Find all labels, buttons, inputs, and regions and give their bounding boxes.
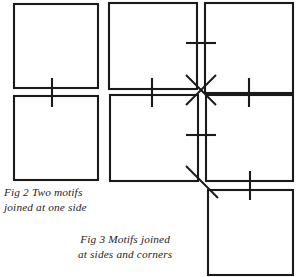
fig3-caption-line-2: at sides and corners — [78, 247, 172, 262]
fig3-bottom-left-square — [110, 95, 198, 181]
fig2-top-square — [14, 4, 98, 88]
fig3-top-left-square — [109, 3, 197, 89]
figure-page: Fig 2 Two motifs joined at one side Fig … — [0, 0, 297, 277]
fig3-caption: Fig 3 Motifs joined at sides and corners — [78, 232, 172, 261]
fig3-bottom-right-square — [206, 95, 293, 181]
fig2-caption-line-2: joined at one side — [4, 200, 87, 215]
fig2-bottom-square — [14, 96, 98, 180]
fig3-caption-line-1: Fig 3 Motifs joined — [78, 232, 172, 247]
fig3-lower-corner-square — [208, 190, 293, 275]
fig2-group — [14, 4, 98, 180]
fig2-caption: Fig 2 Two motifs joined at one side — [4, 185, 87, 214]
fig2-caption-line-1: Fig 2 Two motifs — [4, 185, 87, 200]
